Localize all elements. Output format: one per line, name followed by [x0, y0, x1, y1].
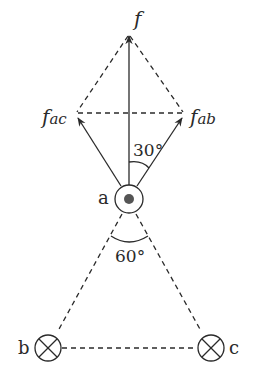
label-a: a	[98, 187, 109, 208]
wire-a-dot-icon	[115, 185, 143, 213]
angle-arc-60	[111, 236, 148, 242]
label-f: f	[132, 7, 145, 31]
label-b: b	[18, 337, 30, 358]
dash-a-b	[58, 214, 122, 331]
wire-b-cross-icon	[35, 335, 61, 361]
dash-f-fab	[130, 36, 183, 112]
wire-c-cross-icon	[198, 335, 224, 361]
arrow-fac	[78, 118, 121, 186]
dash-a-c	[136, 214, 201, 331]
angle-arc-30	[129, 162, 149, 168]
label-fab: fab	[188, 105, 216, 129]
label-angle-60: 60°	[115, 246, 145, 266]
label-c: c	[229, 337, 239, 358]
label-angle-30: 30°	[133, 140, 163, 160]
label-fac: fac	[40, 105, 67, 129]
dash-f-fac	[77, 36, 128, 112]
force-diagram: f fac fab 30° 60° a b c	[0, 0, 254, 382]
